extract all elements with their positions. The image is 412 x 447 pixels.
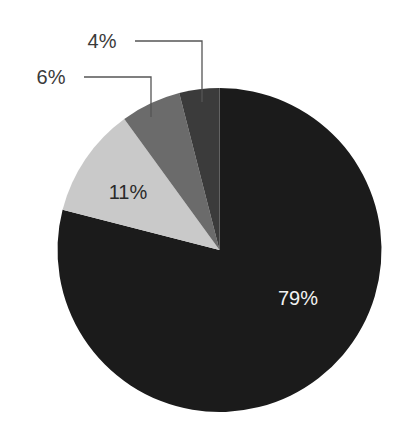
pie-slices	[57, 88, 381, 412]
slice-label-79: 79%	[278, 287, 318, 309]
pie-chart: 79%11%6%4%	[0, 0, 412, 447]
slice-label-6: 6%	[37, 66, 66, 88]
slice-label-11: 11%	[109, 181, 148, 203]
slice-label-4: 4%	[88, 30, 117, 52]
